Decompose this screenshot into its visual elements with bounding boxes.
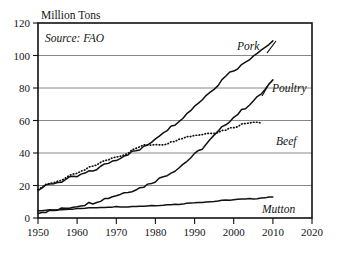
xtick-label-1990: 1990 bbox=[184, 226, 207, 238]
gridlines bbox=[38, 56, 312, 186]
xtick-label-1980: 1980 bbox=[144, 226, 167, 238]
series-label-mutton: Mutton bbox=[261, 203, 295, 215]
series-label-beef: Beef bbox=[276, 135, 298, 148]
xtick-label-2000: 2000 bbox=[223, 226, 246, 238]
ytick-label-80: 80 bbox=[19, 82, 31, 94]
ytick-label-0: 0 bbox=[25, 212, 31, 224]
series-line-beef bbox=[38, 122, 261, 189]
series-paths bbox=[38, 41, 273, 214]
ytick-label-60: 60 bbox=[19, 115, 31, 127]
xtick-label-1970: 1970 bbox=[105, 226, 128, 238]
xtick-label-1950: 1950 bbox=[27, 226, 50, 238]
series-labels: Pork Poultry Beef Mutton bbox=[236, 40, 307, 215]
xtick-label-2020: 2020 bbox=[301, 226, 324, 238]
series-label-poultry: Poultry bbox=[271, 82, 307, 95]
leader-poultry bbox=[262, 84, 269, 96]
ytick-label-40: 40 bbox=[19, 147, 31, 159]
ytick-label-20: 20 bbox=[19, 180, 31, 192]
y-axis-title: Million Tons bbox=[41, 9, 101, 21]
xtick-label-2010: 2010 bbox=[262, 226, 285, 238]
series-label-pork: Pork bbox=[236, 40, 260, 52]
series-line-mutton bbox=[38, 197, 273, 211]
chart-container: 120 100 80 60 40 20 0 1950 1960 1970 198… bbox=[0, 0, 337, 253]
source-annotation: Source: FAO bbox=[45, 32, 105, 44]
meat-production-line-chart: 120 100 80 60 40 20 0 1950 1960 1970 198… bbox=[0, 0, 337, 253]
x-axis-tickmarks bbox=[38, 218, 312, 224]
series-line-poultry bbox=[38, 80, 273, 214]
ytick-label-100: 100 bbox=[14, 50, 31, 62]
series-line-pork bbox=[38, 41, 273, 191]
y-axis-labels: 120 100 80 60 40 20 0 bbox=[14, 17, 31, 224]
x-axis-labels: 1950 1960 1970 1980 1990 2000 2010 2020 bbox=[27, 226, 324, 238]
xtick-label-1960: 1960 bbox=[66, 226, 89, 238]
ytick-label-120: 120 bbox=[14, 17, 31, 29]
